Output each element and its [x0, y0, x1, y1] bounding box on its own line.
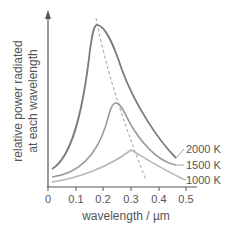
curve-2000k	[52, 25, 176, 169]
svg-text:0.4: 0.4	[151, 193, 166, 205]
svg-text:0.1: 0.1	[68, 193, 83, 205]
y-axis-arrow-icon	[45, 10, 51, 19]
legend: 2000 K 1500 K 1000 K	[186, 143, 222, 186]
legend-1000k: 1000 K	[186, 174, 222, 186]
legend-2000k: 2000 K	[186, 143, 222, 155]
peak-dashed-line	[96, 18, 146, 180]
svg-text:0: 0	[45, 193, 51, 205]
svg-text:at each wavelength: at each wavelength	[26, 49, 40, 152]
svg-text:0.2: 0.2	[95, 193, 110, 205]
svg-text:relative power radiated: relative power radiated	[11, 40, 25, 161]
x-axis-title: wavelength / µm	[81, 209, 170, 223]
x-tick-labels: 0 0.1 0.2 0.3 0.4 0.5	[45, 193, 194, 205]
svg-text:0.3: 0.3	[123, 193, 138, 205]
blackbody-chart: 0 0.1 0.2 0.3 0.4 0.5 wavelength / µm re…	[0, 0, 226, 233]
y-axis-title: relative power radiated at each waveleng…	[11, 40, 40, 161]
svg-text:0.5: 0.5	[178, 193, 193, 205]
legend-1500k: 1500 K	[186, 159, 222, 171]
legend-leaders	[176, 149, 186, 180]
curve-1000k	[52, 150, 183, 182]
x-ticks	[48, 187, 186, 191]
